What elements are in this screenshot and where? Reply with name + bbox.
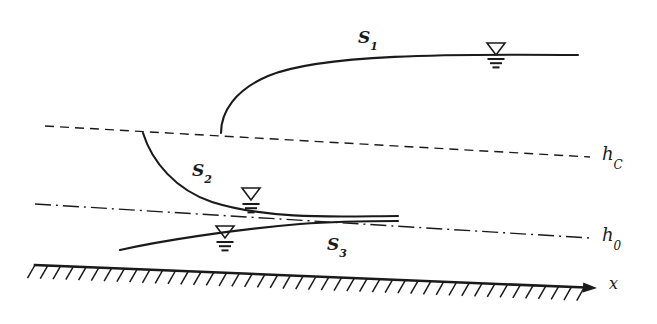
bed-hatch-stroke (526, 285, 534, 298)
bed-hatch-stroke (436, 282, 444, 295)
bed-hatch-stroke (360, 279, 368, 292)
bed-hatch-stroke (513, 285, 521, 298)
x-axis-arrowhead (583, 282, 597, 292)
bed-hatch-stroke (449, 282, 457, 295)
water-level-triangle-icon (242, 188, 260, 200)
bed-hatch-stroke (270, 275, 278, 288)
bed-hatch-stroke (91, 268, 99, 281)
bed-hatch-stroke (385, 280, 393, 293)
s3-label: S3 (327, 234, 347, 257)
water-level-markers (216, 43, 505, 250)
bed-hatch-stroke (411, 281, 419, 294)
critical-depth-label-subscript: C (614, 158, 623, 172)
diagram-canvas (0, 0, 657, 324)
bed-hatch-stroke (398, 280, 406, 293)
s3-label-base: S (327, 234, 339, 254)
s2-label-base: S (192, 160, 204, 180)
bed-hatch-stroke (372, 279, 380, 292)
normal-depth-label-subscript: 0 (614, 239, 622, 253)
bed-hatch-stroke (194, 272, 202, 285)
bed-hatch-stroke (347, 278, 355, 291)
normal-depth-label: h0 (602, 224, 621, 249)
bed-hatch-stroke (309, 277, 317, 290)
critical-depth-label-base: h (602, 143, 614, 164)
bed-hatch-stroke (155, 270, 163, 283)
bed-hatch-stroke (334, 278, 342, 291)
s2-curve (143, 133, 398, 217)
bed-hatch-stroke (219, 273, 227, 286)
critical-depth-label: hC (602, 143, 623, 168)
bed-hatch-stroke (551, 286, 559, 299)
bed-hatch-stroke (321, 277, 329, 290)
normal-depth-line (35, 204, 590, 238)
bed-hatch-stroke (257, 274, 265, 287)
s1-label-base: S (358, 27, 370, 47)
s3-label-subscript: 3 (339, 247, 347, 260)
water-surface-profile-diagram: S1 S2 S3 hC h0 x (0, 0, 657, 324)
x-axis-label: x (609, 274, 618, 293)
s1-label: S1 (358, 27, 378, 50)
bed-hatch-stroke (245, 274, 253, 287)
bed-hatch-stroke (66, 267, 74, 280)
water-level-marker-s3 (216, 226, 234, 250)
bed-hatch-stroke (117, 269, 125, 282)
bed-hatch-stroke (104, 268, 112, 281)
bed-hatch-stroke (500, 284, 508, 297)
water-level-triangle-icon (487, 43, 505, 55)
bed-hatch-stroke (462, 283, 470, 296)
s1-label-subscript: 1 (370, 40, 378, 53)
bed-hatch-stroke (142, 270, 150, 283)
bed-hatch-stroke (475, 283, 483, 296)
bed-hatch-stroke (564, 287, 572, 300)
bed-hatch-stroke (79, 267, 87, 280)
bed-hatch-stroke (130, 269, 138, 282)
bed-hatch-stroke (423, 281, 431, 294)
water-level-marker-s2 (242, 188, 260, 212)
s3-curve (120, 221, 398, 250)
bed-hatch-stroke (40, 266, 48, 279)
s2-label: S2 (192, 160, 212, 183)
s2-label-subscript: 2 (204, 173, 212, 186)
s1-curve (221, 55, 578, 133)
normal-depth-label-base: h (602, 224, 614, 245)
bed-hatch-stroke (168, 271, 176, 284)
bed-hatch-stroke (181, 271, 189, 284)
critical-depth-line (45, 126, 590, 157)
bed-hatch-stroke (53, 266, 61, 279)
bed-hatch-stroke (538, 286, 546, 299)
bed-hatch-stroke (283, 275, 291, 288)
channel-bed-line (35, 265, 585, 288)
bed-hatch-stroke (28, 265, 36, 278)
bed-hatch-stroke (232, 273, 240, 286)
bed-hatch-stroke (296, 276, 304, 289)
channel-bed-group (28, 265, 598, 301)
bed-hatch-stroke (487, 284, 495, 297)
bed-hatch-stroke (206, 272, 214, 285)
